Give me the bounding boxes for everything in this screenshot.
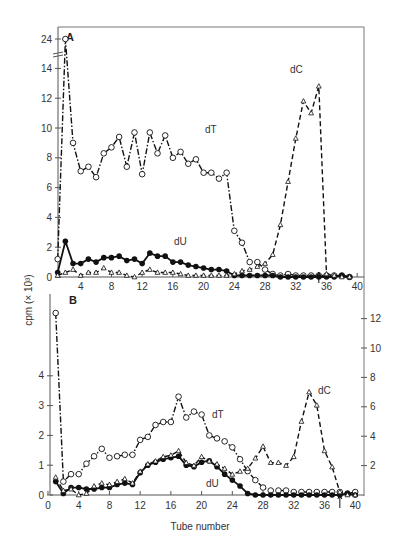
marker-filled-circle <box>329 492 335 498</box>
marker-open-circle <box>170 155 176 161</box>
marker-open-circle <box>176 394 182 400</box>
marker-open-circle <box>185 161 191 167</box>
marker-filled-circle <box>199 459 205 465</box>
chart-figure: 0246810121424481216202428323640AdTdUdC 0… <box>0 0 395 552</box>
y-tick-label: 2 <box>46 242 52 253</box>
marker-filled-circle <box>245 491 251 497</box>
y-tick-label: 12 <box>41 93 53 104</box>
marker-filled-circle <box>93 259 99 265</box>
marker-filled-circle <box>216 267 222 273</box>
y-tick-label-right: 12 <box>370 313 382 324</box>
marker-filled-circle <box>283 492 289 498</box>
marker-open-triangle <box>176 448 181 452</box>
marker-open-circle <box>137 437 143 443</box>
y-tick-label-left: 3 <box>38 400 44 411</box>
marker-open-circle <box>247 259 253 265</box>
marker-open-circle <box>162 133 168 139</box>
marker-open-circle <box>139 171 145 177</box>
y-tick-label: 10 <box>41 123 53 134</box>
marker-open-triangle <box>140 270 145 274</box>
y-axis-title: cpm (× 10³) <box>23 274 34 325</box>
marker-filled-circle <box>291 492 297 498</box>
marker-open-circle <box>237 456 243 462</box>
marker-filled-circle <box>253 492 259 498</box>
panel-b: 01234246810120481216202428323640BdTdUdC <box>38 294 381 511</box>
marker-filled-circle <box>99 485 105 491</box>
marker-open-circle <box>124 164 130 170</box>
y-tick-label-right: 6 <box>370 401 376 412</box>
marker-open-triangle <box>309 111 314 115</box>
x-tick-label: 28 <box>259 281 271 292</box>
marker-filled-circle <box>239 273 245 279</box>
marker-open-circle <box>153 422 159 428</box>
marker-open-triangle <box>238 469 243 473</box>
x-tick-label: 36 <box>319 500 331 511</box>
series-line-dT <box>56 313 356 494</box>
marker-open-triangle <box>330 464 335 468</box>
marker-open-circle <box>191 409 197 415</box>
marker-open-circle <box>78 168 84 174</box>
marker-filled-circle <box>193 264 199 270</box>
marker-open-circle <box>86 164 92 170</box>
marker-open-circle <box>178 149 184 155</box>
marker-filled-circle <box>247 273 253 279</box>
x-tick-label: 4 <box>76 500 82 511</box>
marker-open-circle <box>183 415 189 421</box>
y-tick-label: 6 <box>46 182 52 193</box>
marker-filled-circle <box>230 477 236 483</box>
marker-filled-circle <box>293 274 299 280</box>
marker-open-circle <box>230 445 236 451</box>
marker-filled-circle <box>276 492 282 498</box>
marker-filled-circle <box>270 273 276 279</box>
marker-filled-circle <box>185 262 191 268</box>
y-tick-label: 14 <box>41 63 53 74</box>
marker-open-circle <box>91 453 97 459</box>
marker-filled-circle <box>278 274 284 280</box>
marker-open-circle <box>239 240 245 246</box>
x-tick-label: 16 <box>165 500 177 511</box>
marker-open-triangle <box>307 390 312 394</box>
marker-open-circle <box>84 461 90 467</box>
marker-open-circle <box>206 433 212 439</box>
marker-open-triangle <box>270 252 275 256</box>
x-tick-label: 36 <box>321 281 333 292</box>
marker-filled-circle <box>70 261 76 267</box>
y-tick-label: 4 <box>46 212 52 223</box>
y-tick-label: 24 <box>41 34 53 45</box>
marker-open-triangle <box>168 453 173 457</box>
marker-filled-circle <box>124 258 130 264</box>
panel-label-b: B <box>69 294 77 306</box>
marker-open-triangle <box>293 136 298 140</box>
marker-open-triangle <box>261 444 266 448</box>
x-tick-label: 32 <box>290 281 302 292</box>
marker-filled-circle <box>322 492 328 498</box>
x-tick-label: 16 <box>167 281 179 292</box>
marker-open-circle <box>253 477 259 483</box>
marker-open-circle <box>224 170 230 176</box>
series-label-dC: dC <box>318 385 331 396</box>
marker-filled-circle <box>299 492 305 498</box>
marker-filled-circle <box>262 273 268 279</box>
x-tick-label: 20 <box>196 500 208 511</box>
marker-open-circle <box>155 151 161 157</box>
marker-open-circle <box>216 176 222 182</box>
marker-open-triangle <box>161 454 166 458</box>
marker-filled-circle <box>201 265 207 271</box>
y-tick-label-left: 1 <box>38 460 44 471</box>
marker-open-triangle <box>147 267 152 271</box>
marker-open-circle <box>145 434 151 440</box>
x-tick-label: 28 <box>257 500 269 511</box>
marker-open-circle <box>76 471 82 477</box>
x-tick-label: 24 <box>229 281 241 292</box>
marker-filled-circle <box>132 256 138 262</box>
x-axis-title: Tube number <box>170 521 230 532</box>
marker-filled-circle <box>255 273 261 279</box>
marker-open-circle <box>107 455 113 461</box>
marker-filled-circle <box>116 253 122 259</box>
y-tick-label-left: 0 <box>38 490 44 501</box>
x-tick-label: 20 <box>198 281 210 292</box>
marker-open-circle <box>222 439 228 445</box>
marker-open-circle <box>262 267 268 273</box>
marker-open-circle <box>122 452 128 458</box>
marker-open-circle <box>99 446 105 452</box>
